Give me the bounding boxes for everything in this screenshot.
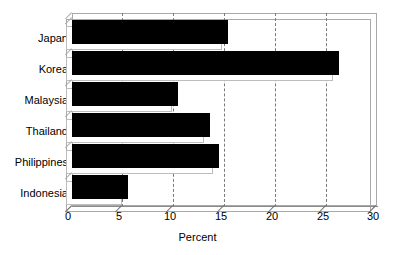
bar-korea-face xyxy=(72,51,339,75)
bar-japan-face xyxy=(72,20,228,44)
x-axis-title: Percent xyxy=(179,231,217,243)
category-label-korea: Korea xyxy=(2,63,68,75)
category-label-philippines: Philippines xyxy=(2,156,68,168)
bar-thailand-face xyxy=(72,113,210,137)
plot-area xyxy=(72,13,378,207)
category-label-thailand: Thailand xyxy=(2,125,68,137)
xticklabel-20: 20 xyxy=(257,210,287,222)
x-axis-title-wrap: Percent xyxy=(0,231,395,243)
bar-thailand[interactable] xyxy=(72,113,210,137)
xticklabel-25: 25 xyxy=(308,210,338,222)
xticklabel-15: 15 xyxy=(206,210,236,222)
bar-philippines-face xyxy=(72,144,219,168)
xticklabel-30: 30 xyxy=(358,210,388,222)
bar-chart: Japan Korea Malaysia Thailand Philippine… xyxy=(0,0,395,255)
bar-indonesia[interactable] xyxy=(72,175,128,199)
bar-philippines[interactable] xyxy=(72,144,219,168)
bars-layer xyxy=(72,13,378,207)
bar-malaysia[interactable] xyxy=(72,82,178,106)
category-label-indonesia: Indonesia xyxy=(2,187,68,199)
category-label-malaysia: Malaysia xyxy=(2,94,68,106)
xticklabel-10: 10 xyxy=(155,210,185,222)
category-label-japan: Japan xyxy=(2,32,68,44)
bar-japan[interactable] xyxy=(72,20,228,44)
bar-korea[interactable] xyxy=(72,51,339,75)
bar-malaysia-face xyxy=(72,82,178,106)
xticklabel-0: 0 xyxy=(53,210,83,222)
bar-indonesia-face xyxy=(72,175,128,199)
xticklabel-5: 5 xyxy=(104,210,134,222)
